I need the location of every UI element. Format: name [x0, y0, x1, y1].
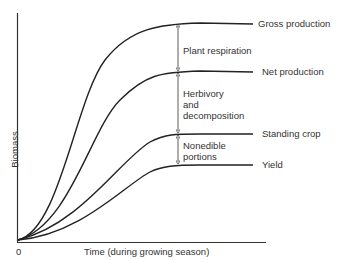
herbivory-label-1: Herbivory [183, 88, 224, 99]
x-axis-label: Time (during growing season) [84, 246, 209, 257]
y-axis-label: Biomass [9, 131, 20, 167]
yield-curve [18, 165, 253, 240]
yield-label: Yield [262, 159, 283, 170]
gross-production-label: Gross production [258, 18, 330, 29]
nonedible-label-2: portions [183, 151, 217, 162]
net-production-label: Net production [262, 66, 324, 77]
origin-label: 0 [16, 246, 21, 257]
respiration-label: Plant respiration [183, 45, 252, 56]
nonedible-label-1: Nonedible [183, 140, 226, 151]
herbivory-label-3: decomposition [183, 110, 244, 121]
standing-crop-label: Standing crop [262, 128, 321, 139]
herbivory-label-2: and [183, 99, 199, 110]
